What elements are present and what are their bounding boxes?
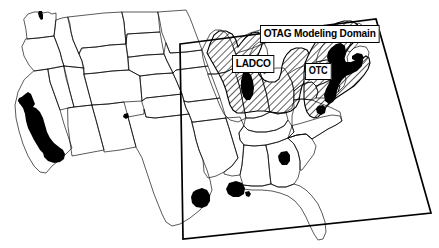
label-otag-modeling-domain: OTAG Modeling Domain: [260, 25, 379, 43]
nonattainment-atlanta: [278, 151, 290, 165]
label-otc: OTC: [305, 63, 331, 80]
nonattainment-seattle: [38, 11, 43, 20]
map-figure: OTAG Modeling Domain LADCO OTC: [0, 0, 439, 248]
nonattainment-houston: [191, 188, 210, 208]
label-ladco: LADCO: [232, 55, 274, 73]
nonattainment-los-angeles: [43, 145, 65, 163]
nonattainment-new-orleans: [245, 191, 251, 197]
nonattainment-california: [18, 92, 63, 157]
nonattainment-baton-rouge: [226, 181, 245, 197]
